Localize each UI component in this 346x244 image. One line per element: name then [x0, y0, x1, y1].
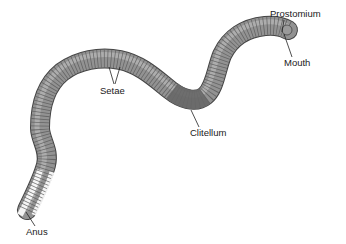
earthworm-body [0, 0, 346, 244]
label-anus: Anus [26, 227, 48, 237]
clitellum-band [172, 91, 205, 100]
setae-leader-1 [109, 67, 114, 84]
earthworm-diagram: Prostomium Mouth Setae Clitellum Anus [0, 0, 346, 244]
worm-body-outline [27, 26, 288, 210]
label-mouth: Mouth [284, 58, 310, 68]
label-prostomium: Prostomium [270, 9, 321, 19]
label-clitellum: Clitellum [190, 128, 226, 138]
clitellum-leader [191, 110, 199, 127]
segment-rings [27, 26, 288, 210]
worm-body-highlight [27, 22, 287, 208]
leader-lines [26, 20, 292, 226]
prostomium-tip [282, 25, 292, 35]
label-setae: Setae [100, 86, 125, 96]
worm-body-fill [27, 26, 288, 210]
